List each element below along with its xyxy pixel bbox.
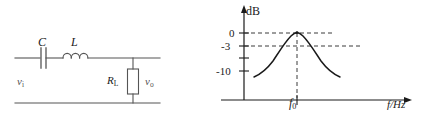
- resistor-label: RL: [107, 75, 118, 87]
- x-tick-label-f0: f0: [289, 97, 296, 111]
- inductor-label: L: [71, 36, 78, 48]
- output-voltage-subscript: o: [150, 80, 154, 89]
- inductor-coil-1: [63, 53, 71, 58]
- inductor-coil-2: [71, 53, 79, 58]
- circuit-schematic-svg: [0, 0, 213, 125]
- output-voltage-label: vo: [145, 76, 154, 88]
- resistor-label-main: R: [107, 74, 114, 86]
- circuit-diagram-panel: C L RL vi vo: [0, 0, 213, 125]
- peak-marker: [296, 31, 299, 34]
- input-voltage-subscript: i: [22, 80, 24, 89]
- y-tick-label-minus10: -10: [216, 66, 231, 77]
- inductor-coil-3: [80, 53, 88, 58]
- x-axis-label-text: f/Hz: [387, 98, 405, 110]
- y-axis-label: dB: [246, 5, 260, 17]
- figure-container: C L RL vi vo: [0, 0, 427, 125]
- capacitor-label: C: [38, 36, 46, 48]
- frequency-response-panel: dB 0 -3 -10 f0 f/Hz: [213, 0, 427, 125]
- resistor-label-subscript: L: [114, 79, 119, 88]
- x-axis-label: f/Hz: [387, 99, 405, 110]
- y-tick-label-0: 0: [229, 28, 235, 39]
- y-tick-label-minus3: -3: [221, 41, 230, 52]
- input-voltage-label: vi: [17, 76, 24, 88]
- x-tick-label-f0-subscript: 0: [292, 102, 296, 111]
- resistor-body: [128, 69, 139, 94]
